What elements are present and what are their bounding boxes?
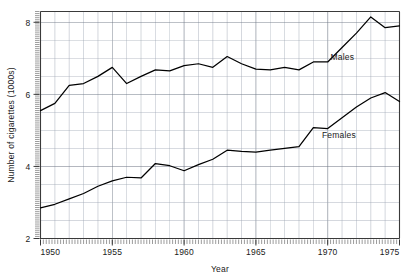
y-tick-label: 8 [26, 18, 31, 28]
x-tick-label: 1965 [246, 247, 266, 257]
x-tick-label: 1975 [380, 247, 400, 257]
y-tick-label: 4 [26, 162, 31, 172]
y-axis-title: Number of cigarettes (1000s) [6, 67, 16, 183]
axis-spines [41, 12, 400, 239]
y-axis-tick-labels: 2468 [26, 18, 31, 244]
x-axis-minor-ticks [41, 240, 400, 245]
gridlines [41, 12, 400, 239]
y-axis-minor-ticks [35, 12, 40, 239]
cigarette-consumption-chart: 1950195519601965197019752468YearNumber o… [0, 0, 414, 279]
y-tick-label: 6 [26, 90, 31, 100]
data-series-females [41, 93, 400, 208]
x-axis-title: Year [211, 264, 229, 274]
series-label-females: Females [322, 130, 356, 140]
y-tick-label: 2 [26, 234, 31, 244]
x-tick-label: 1950 [41, 247, 61, 257]
x-axis-tick-labels: 195019551960196519701975 [41, 247, 400, 257]
chart-canvas: 1950195519601965197019752468YearNumber o… [0, 0, 414, 279]
series-label-males: Males [331, 52, 355, 62]
x-tick-label: 1960 [174, 247, 194, 257]
data-series-males [41, 17, 400, 111]
x-tick-label: 1955 [102, 247, 122, 257]
x-tick-label: 1970 [318, 247, 338, 257]
x-axis-major-ticks [41, 240, 400, 246]
